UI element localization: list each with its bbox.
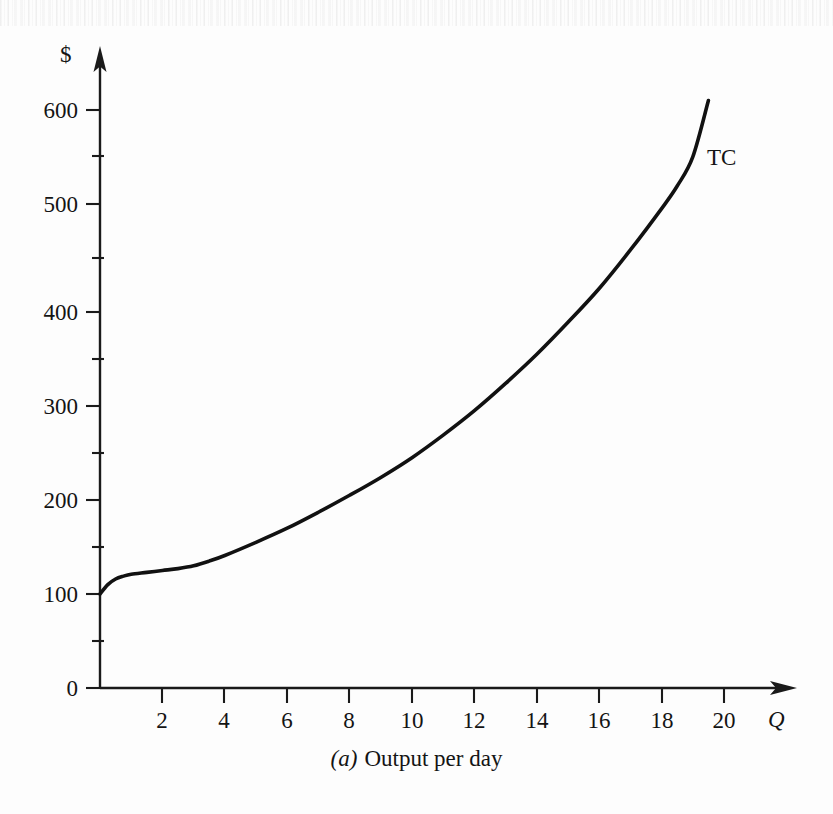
x-tick-label-16: 16	[588, 708, 611, 733]
y-tick-labels: 0 100 200 300 400 500 600	[44, 98, 79, 701]
y-minor-ticks	[92, 156, 104, 641]
y-tick-label-200: 200	[44, 488, 79, 513]
y-tick-label-600: 600	[44, 98, 79, 123]
y-tick-label-0: 0	[67, 676, 79, 701]
y-major-ticks	[86, 110, 100, 688]
y-axis-title: $	[60, 42, 72, 67]
x-tick-labels: 2 4 6 8 10 12 14 16 18 20	[156, 708, 735, 733]
y-tick-label-300: 300	[44, 394, 79, 419]
x-tick-label-20: 20	[713, 708, 736, 733]
figure-panel-a: 0 100 200 300 400 500 600 2 4 6 8 10 12 …	[0, 0, 833, 814]
figure-caption: (a)Output per day	[0, 746, 833, 772]
y-tick-label-500: 500	[44, 192, 79, 217]
total-cost-chart: 0 100 200 300 400 500 600 2 4 6 8 10 12 …	[0, 0, 833, 814]
y-tick-label-100: 100	[44, 582, 79, 607]
x-major-ticks	[162, 688, 724, 703]
x-tick-label-8: 8	[343, 708, 355, 733]
caption-text: Output per day	[364, 746, 502, 771]
x-axis-title: Q	[768, 707, 785, 732]
x-tick-label-10: 10	[401, 708, 424, 733]
x-tick-label-4: 4	[218, 708, 230, 733]
y-tick-label-400: 400	[44, 300, 79, 325]
tc-series-label: TC	[707, 145, 736, 170]
x-tick-label-14: 14	[526, 708, 550, 733]
tc-curve	[100, 101, 708, 595]
x-tick-label-2: 2	[156, 708, 168, 733]
x-tick-label-12: 12	[463, 708, 486, 733]
x-tick-label-18: 18	[651, 708, 674, 733]
x-tick-label-6: 6	[281, 708, 293, 733]
x-axis	[100, 681, 797, 695]
caption-panel-letter: (a)	[331, 746, 358, 771]
